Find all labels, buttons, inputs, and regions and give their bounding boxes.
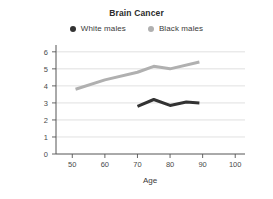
plot-area: 0123456 5060708090100: [0, 0, 273, 199]
y-tick-label: 4: [44, 82, 48, 91]
y-tick-label: 1: [44, 133, 48, 142]
x-axis-title: Age: [60, 176, 240, 185]
x-tick-label: 50: [68, 160, 76, 169]
y-tick-label: 2: [44, 116, 48, 125]
x-tick-label: 100: [229, 160, 242, 169]
y-tick-label: 6: [44, 48, 48, 57]
y-axis-ticks: 0123456: [44, 48, 56, 159]
y-tick-label: 5: [44, 65, 48, 74]
x-tick-label: 80: [166, 160, 174, 169]
x-tick-label: 70: [133, 160, 141, 169]
x-tick-label: 60: [101, 160, 109, 169]
series-line: [76, 62, 200, 89]
gridlines: [56, 52, 245, 137]
y-tick-label: 0: [44, 150, 48, 159]
x-tick-label: 90: [198, 160, 206, 169]
x-axis-ticks: 5060708090100: [68, 154, 241, 169]
y-tick-label: 3: [44, 99, 48, 108]
brain-cancer-chart: Brain Cancer White males Black males 012…: [0, 0, 273, 199]
